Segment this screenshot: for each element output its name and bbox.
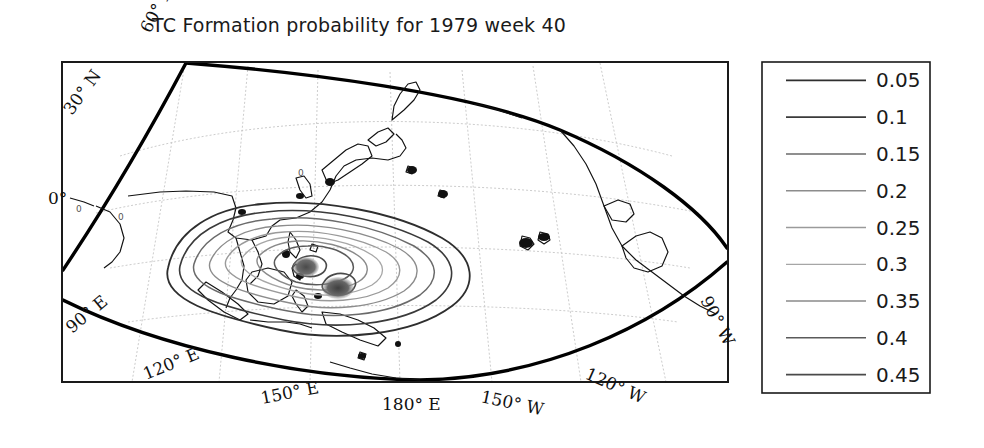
contour-label-0a: 0 bbox=[76, 204, 82, 214]
legend-label-0-45: 0.45 bbox=[876, 363, 921, 387]
contour-label-0b: 0 bbox=[118, 212, 124, 222]
legend-label-0-2: 0.2 bbox=[876, 179, 908, 203]
legend-label-0-25: 0.25 bbox=[876, 216, 921, 240]
legend-label-0-4: 0.4 bbox=[876, 326, 908, 350]
legend-label-0-1: 0.1 bbox=[876, 105, 908, 129]
maximum-east bbox=[322, 277, 354, 299]
lat-label-0: 0° bbox=[48, 188, 67, 208]
maximum-west bbox=[293, 257, 319, 277]
contour-label-0c: 0 bbox=[298, 168, 304, 178]
legend-label-0-3: 0.3 bbox=[876, 252, 908, 276]
lon-label-150w: 150° W bbox=[479, 386, 546, 419]
legend-label-0-15: 0.15 bbox=[876, 142, 921, 166]
figure-container: TC Formation probability for 1979 week 4… bbox=[0, 0, 984, 448]
legend-label-0-05: 0.05 bbox=[876, 68, 921, 92]
figure-canvas: 0 0 0 60° N 30° N 0° 90° E 120° E 150° E… bbox=[0, 0, 984, 448]
legend-label-0-35: 0.35 bbox=[876, 289, 921, 313]
figure-title: TC Formation probability for 1979 week 4… bbox=[152, 14, 566, 36]
lon-label-180e: 180° E bbox=[382, 394, 441, 414]
legend: 0.050.10.150.20.250.30.350.40.45 bbox=[762, 62, 930, 393]
